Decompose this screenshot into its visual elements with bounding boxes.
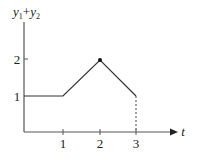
y-tick-label-2: 2 xyxy=(14,52,21,67)
data-line xyxy=(24,60,136,96)
x-tick-label-1: 1 xyxy=(60,136,67,151)
x-tick-label-2: 2 xyxy=(97,136,104,151)
x-axis-label: t xyxy=(181,124,185,139)
chart: 1 2 3 2 1 t y1+y2 xyxy=(0,0,197,160)
y-axis-label: y1+y2 xyxy=(11,4,40,21)
peak-dot xyxy=(98,58,102,62)
y-tick-label-1: 1 xyxy=(14,89,21,104)
x-tick-label-3: 3 xyxy=(133,136,140,151)
y-label-b-sub: 2 xyxy=(36,12,40,21)
y-label-op: + xyxy=(23,4,30,19)
x-axis-arrow-icon xyxy=(170,129,178,136)
